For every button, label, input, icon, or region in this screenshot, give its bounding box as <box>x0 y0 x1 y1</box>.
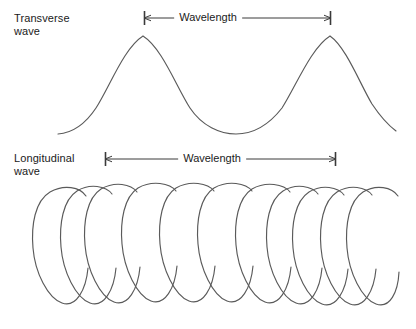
longitudinal-wave-coil <box>33 183 399 305</box>
wave-diagram-figure: Transverse wave Longitudinal wave <box>0 0 416 329</box>
transverse-wave-curve <box>58 36 396 134</box>
transverse-wavelength-caption: Wavelength <box>174 11 242 24</box>
longitudinal-wavelength-caption: Wavelength <box>178 152 246 165</box>
